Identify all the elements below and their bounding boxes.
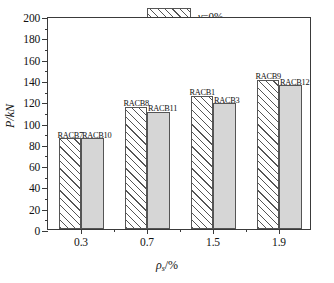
bar-label-racb12: RACB12 (280, 77, 309, 87)
y-axis-tick-major (42, 82, 48, 83)
y-axis-tick-major (42, 210, 48, 211)
x-axis-tick-minor (246, 229, 247, 232)
y-axis-tick-major (42, 188, 48, 189)
bar-label-racb1: RACB1 (190, 88, 216, 98)
bar-label-racb7: RACB7 (58, 130, 84, 140)
bar-label-racb10: RACB10 (82, 130, 111, 140)
y-axis-tick-minor (45, 50, 49, 51)
x-axis-tick-minor (180, 229, 181, 232)
y-axis-tick-label: 140 (23, 76, 40, 88)
y-axis-tick-major (42, 125, 48, 126)
y-axis-tick-major (42, 231, 48, 232)
x-axis-tick-major (147, 229, 148, 234)
bar-racb12 (279, 85, 302, 229)
plot-area: 020406080100120140160180200 0.30.71.51.9… (47, 17, 311, 230)
bar-racb11 (147, 112, 170, 229)
x-axis-tick-minor (114, 229, 115, 232)
bar-label-racb8: RACB8 (124, 99, 150, 109)
x-axis-tick-label: 1.9 (272, 236, 286, 248)
y-axis-tick-label: 20 (29, 204, 40, 216)
y-axis-tick-minor (45, 220, 49, 221)
figure-container: P/kN γ=0% γ=100% 02040608010012014016018… (0, 0, 334, 283)
y-axis-tick-label: 120 (23, 97, 40, 109)
x-axis-title: ρs/% (0, 258, 334, 273)
y-axis-tick-label: 80 (29, 140, 40, 152)
x-axis-tick-label: 1.5 (206, 236, 220, 248)
y-axis-tick-minor (45, 71, 49, 72)
x-axis-tick-major (279, 229, 280, 234)
y-axis-tick-major (42, 61, 48, 62)
x-axis-tick-major (213, 229, 214, 234)
y-axis-tick-label: 40 (29, 182, 40, 194)
y-axis-title: P/kN (3, 104, 18, 128)
x-axis-tick-major (81, 229, 82, 234)
y-axis-tick-label: 180 (23, 33, 40, 45)
y-axis-tick-major (42, 146, 48, 147)
bar-racb8 (125, 107, 148, 229)
bar-racb10 (81, 138, 104, 229)
y-axis-tick-major (42, 103, 48, 104)
y-axis-tick-label: 200 (23, 12, 40, 24)
y-axis-tick-major (42, 167, 48, 168)
bar-label-racb3: RACB3 (214, 95, 240, 105)
x-axis-title-unit: /% (165, 258, 178, 272)
bar-racb7 (59, 138, 82, 229)
y-axis-tick-label: 0 (34, 225, 40, 237)
y-axis-tick-minor (45, 135, 49, 136)
bar-racb9 (257, 80, 280, 229)
bar-racb3 (213, 103, 236, 229)
y-axis-tick-major (42, 18, 48, 19)
y-axis-tick-major (42, 39, 48, 40)
y-axis-tick-minor (45, 93, 49, 94)
y-axis-tick-minor (45, 199, 49, 200)
y-axis-tick-minor (45, 178, 49, 179)
x-axis-tick-label: 0.3 (74, 236, 88, 248)
bar-racb1 (191, 96, 214, 229)
y-axis-tick-minor (45, 114, 49, 115)
y-axis-tick-label: 160 (23, 55, 40, 67)
x-axis-tick-label: 0.7 (140, 236, 154, 248)
y-axis-tick-label: 60 (29, 161, 40, 173)
y-axis-tick-label: 100 (23, 119, 40, 131)
bar-label-racb9: RACB9 (256, 72, 282, 82)
y-axis-tick-minor (45, 156, 49, 157)
bar-label-racb11: RACB11 (148, 104, 177, 114)
y-axis-tick-minor (45, 29, 49, 30)
